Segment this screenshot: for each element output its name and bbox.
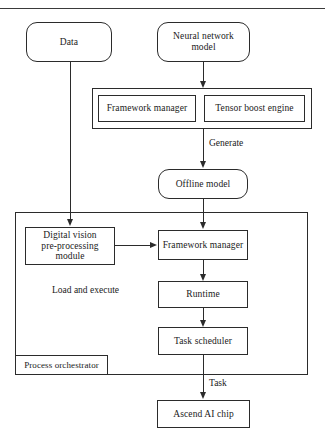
edge-data-to-dvpp-line [70,62,71,220]
edge-task-line [203,355,204,393]
node-ascend-ai-chip-label: Ascend AI chip [173,409,234,420]
node-framework-manager-top: Framework manager [98,95,196,122]
node-task-scheduler-label: Task scheduler [174,336,232,347]
node-data: Data [26,22,112,62]
node-dvpp-label-line2: pre-processing module [28,241,112,263]
node-data-label: Data [60,37,78,48]
node-framework-manager-top-label: Framework manager [107,103,188,114]
node-process-orchestrator-label: Process orchestrator [15,355,108,375]
node-ascend-ai-chip: Ascend AI chip [157,400,250,428]
edge-nn-to-toolgroup-line [203,62,204,82]
edge-task-arrowhead [200,392,206,399]
edge-generate-label: Generate [208,138,244,148]
edge-nn-to-toolgroup-arrowhead [200,81,206,88]
node-tensor-boost-engine: Tensor boost engine [204,95,305,122]
node-runtime: Runtime [158,281,248,308]
node-dvpp-label-line1: Digital vision [43,230,96,241]
diagram-canvas: Data Neural network model Framework mana… [0,0,325,447]
node-neural-network-model-label: Neural network model [160,31,247,53]
node-framework-manager-bottom-label: Framework manager [163,240,244,251]
page-top-rule [0,8,325,9]
node-offline-model: Offline model [158,169,248,199]
edge-dvpp-to-framework-line [115,245,150,246]
node-process-orchestrator-text: Process orchestrator [24,360,99,370]
node-task-scheduler: Task scheduler [158,327,248,355]
node-neural-network-model: Neural network model [157,22,250,62]
edge-dvpp-to-framework-arrowhead [150,242,157,248]
edge-framework-to-runtime-line [203,260,204,275]
edge-runtime-to-scheduler-arrowhead [200,320,206,327]
node-runtime-label: Runtime [186,289,219,300]
label-load-and-execute: Load and execute [52,285,119,295]
edge-generate-line [203,129,204,162]
edge-task-label: Task [208,378,228,388]
node-offline-model-label: Offline model [176,179,231,190]
node-tensor-boost-engine-label: Tensor boost engine [215,103,293,114]
edge-framework-to-runtime-arrowhead [200,274,206,281]
node-framework-manager-bottom: Framework manager [158,230,248,260]
node-digital-vision-preprocessing-module: Digital vision pre-processing module [25,227,115,265]
edge-generate-arrowhead [200,161,206,168]
